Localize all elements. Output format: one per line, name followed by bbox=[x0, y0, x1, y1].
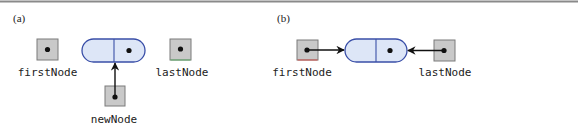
first-node-ref-box bbox=[297, 40, 344, 60]
panel-a: (a) firstNode lastNode newNode bbox=[13, 12, 208, 126]
last-node-label: lastNode bbox=[419, 66, 472, 79]
pointer-dot-icon bbox=[304, 47, 309, 52]
new-node-ref-box bbox=[105, 63, 125, 106]
last-node-ref-box bbox=[170, 39, 191, 60]
last-node-ref-box bbox=[408, 40, 455, 61]
pointer-dot-icon bbox=[441, 48, 446, 53]
list-node bbox=[345, 39, 407, 62]
first-node-ref-box bbox=[37, 39, 58, 60]
panel-b: (b) firstNode lastNode bbox=[272, 12, 471, 79]
first-node-label: firstNode bbox=[272, 66, 332, 79]
diagram-canvas: (a) firstNode lastNode newNode (b bbox=[0, 0, 582, 132]
first-node-label: firstNode bbox=[18, 66, 78, 79]
pointer-dot-icon bbox=[112, 94, 117, 99]
new-node-label: newNode bbox=[91, 113, 137, 126]
next-null-dot-icon bbox=[126, 48, 131, 53]
null-dot-icon bbox=[178, 46, 183, 51]
panel-b-label: (b) bbox=[277, 12, 290, 25]
next-null-dot-icon bbox=[387, 48, 392, 53]
panel-a-label: (a) bbox=[13, 12, 26, 25]
null-dot-icon bbox=[45, 47, 50, 52]
list-node bbox=[82, 39, 145, 62]
last-node-label: lastNode bbox=[156, 66, 209, 79]
